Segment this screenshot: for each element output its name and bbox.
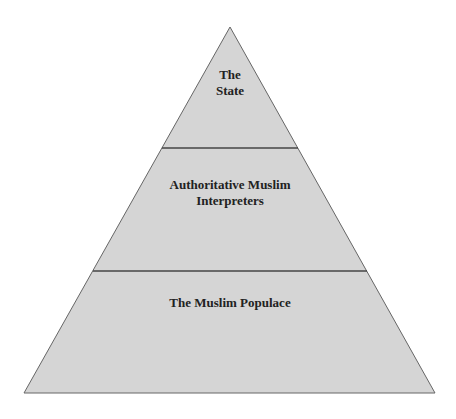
tier-bottom-line1: The Muslim Populace (169, 295, 290, 311)
tier-top-line1: The (216, 67, 244, 83)
tier-middle-line1: Authoritative Muslim (170, 177, 291, 193)
tier-top-label: The State (216, 67, 244, 99)
pyramid-diagram: The State Authoritative Muslim Interpret… (0, 0, 456, 419)
tier-top-line2: State (216, 83, 244, 99)
pyramid-shape (0, 0, 456, 419)
tier-bottom-label: The Muslim Populace (169, 295, 290, 311)
tier-middle-line2: Interpreters (170, 193, 291, 209)
tier-middle-label: Authoritative Muslim Interpreters (170, 177, 291, 209)
